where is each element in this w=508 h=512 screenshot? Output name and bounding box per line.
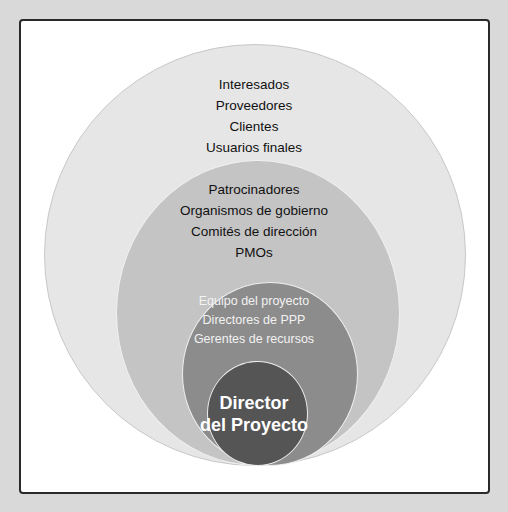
center-label-line: Director (0, 392, 508, 414)
layer-label: Proveedores (0, 95, 508, 116)
center-label: Director del Proyecto (0, 392, 508, 436)
layer-label: Patrocinadores (0, 179, 508, 200)
layer-label: Clientes (0, 116, 508, 137)
layer-label: Usuarios finales (0, 137, 508, 158)
center-label-line: del Proyecto (0, 414, 508, 436)
layer-label: Interesados (0, 74, 508, 95)
layer-label: Organismos de gobierno (0, 200, 508, 221)
layer-label: Gerentes de recursos (0, 330, 508, 349)
layer-label: Comités de dirección (0, 221, 508, 242)
outer-layer-labels: Interesados Proveedores Clientes Usuario… (0, 74, 508, 158)
third-layer-labels: Equipo del proyecto Directores de PPP Ge… (0, 292, 508, 349)
layer-label: PMOs (0, 242, 508, 263)
layer-label: Directores de PPP (0, 311, 508, 330)
layer-label: Equipo del proyecto (0, 292, 508, 311)
second-layer-labels: Patrocinadores Organismos de gobierno Co… (0, 179, 508, 263)
